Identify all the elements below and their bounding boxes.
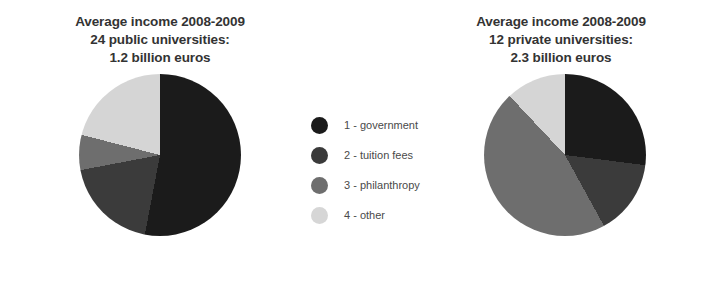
panel-public-universities: Average income 2008-2009 24 public unive… xyxy=(10,0,310,295)
pie-wrap-private xyxy=(411,67,711,247)
pie-wrap-public xyxy=(10,67,310,247)
legend-label-tuition-fees: 2 - tuition fees xyxy=(344,149,413,161)
legend-label-other: 4 - other xyxy=(344,209,385,221)
legend-swatch-philanthropy xyxy=(311,177,328,194)
pie-chart-figure: Average income 2008-2009 24 public unive… xyxy=(0,0,721,295)
chart-title-public-line-3: 1.2 billion euros xyxy=(10,49,310,67)
chart-title-public: Average income 2008-2009 24 public unive… xyxy=(10,0,310,67)
chart-title-private: Average income 2008-2009 12 private univ… xyxy=(411,0,711,67)
legend-swatch-other xyxy=(311,207,328,224)
chart-title-private-line-2: 12 private universities: xyxy=(411,31,711,49)
panel-private-universities: Average income 2008-2009 12 private univ… xyxy=(411,0,711,295)
legend-swatch-government xyxy=(311,117,328,134)
legend-swatch-tuition-fees xyxy=(311,147,328,164)
chart-title-public-line-2: 24 public universities: xyxy=(10,31,310,49)
legend-label-government: 1 - government xyxy=(344,119,418,131)
legend-label-philanthropy: 3 - philanthropy xyxy=(344,179,420,191)
pie-chart-public xyxy=(79,74,241,236)
chart-title-public-line-1: Average income 2008-2009 xyxy=(10,13,310,31)
pie-chart-private xyxy=(484,74,646,236)
chart-title-private-line-3: 2.3 billion euros xyxy=(411,49,711,67)
chart-title-private-line-1: Average income 2008-2009 xyxy=(411,13,711,31)
